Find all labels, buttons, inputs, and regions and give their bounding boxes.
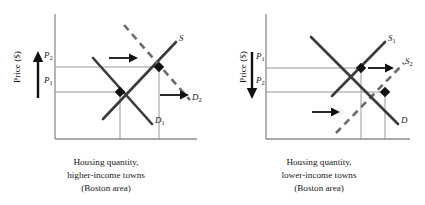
price-label-p2: P2 [256,75,265,85]
curve-label-s: S [179,33,184,43]
price-label-p1: P1 [44,75,53,85]
curve-label-d1: D1 [155,115,165,125]
panel-lower-income: Price ($) P1 P2 S1 S2 D Housing quantity… [213,0,425,205]
demand-curve-d [311,37,398,124]
panel-caption-left: Housing quantity, higher-income towns (B… [0,156,212,196]
shift-arrow-upper [368,64,394,73]
curve-label-d2: D2 [192,92,202,102]
shift-arrow-upper [109,54,138,63]
caption-line-1: Housing quantity, [0,156,212,169]
caption-line-3: (Boston area) [213,182,425,195]
shift-arrow-lower [160,91,189,100]
curve-label-s2: S2 [405,56,413,66]
y-axis-title: Price ($) [238,43,248,91]
panel-higher-income: Price ($) P2 P1 S D1 D2 Housing quantity… [0,0,212,205]
curve-label-d: D [401,115,408,125]
price-direction-arrow-up [31,50,45,100]
caption-line-1: Housing quantity, [213,156,425,169]
y-axis-title: Price ($) [12,43,22,91]
equilibrium-marker-e2 [380,87,390,97]
supply-demand-figure: Price ($) P2 P1 S D1 D2 Housing quantity… [0,0,425,205]
shift-arrow-lower [312,108,340,117]
caption-line-2: higher-income towns [0,169,212,182]
caption-line-2: lower-income towns [213,169,425,182]
panel-caption-right: Housing quantity, lower-income towns (Bo… [213,156,425,196]
curve-label-s1: S1 [388,33,396,43]
caption-line-3: (Boston area) [0,182,212,195]
price-label-p2: P2 [44,50,53,60]
price-label-p1: P1 [256,51,265,61]
